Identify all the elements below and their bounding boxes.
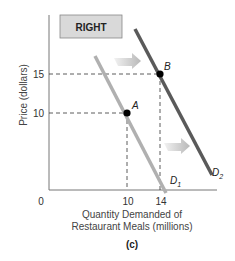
d2-label: D2 — [212, 167, 223, 180]
demand-shift-chart: RIGHT 15 10 Price (dollars) 0 10 14 Quan… — [0, 0, 235, 261]
shift-direction-box: RIGHT — [60, 15, 122, 38]
x-tick-14: 14 — [155, 196, 167, 207]
point-a-label: A — [131, 100, 139, 111]
x-axis-label-line2: Restaurant Meals (millions) — [71, 221, 192, 232]
y-tick-10: 10 — [33, 108, 45, 119]
demand-curve-d1 — [95, 56, 166, 193]
guide-lines — [49, 74, 160, 190]
point-b-marker — [156, 70, 163, 77]
figure-caption: (c) — [126, 239, 138, 250]
y-tick-15: 15 — [33, 69, 45, 80]
y-axis-label: Price (dollars) — [18, 64, 29, 126]
x-axis-label-line1: Quantity Demanded of — [82, 209, 182, 220]
x-tick-10: 10 — [122, 196, 134, 207]
point-a-marker — [123, 109, 130, 116]
point-b-label: B — [164, 61, 171, 72]
x-tick-0: 0 — [38, 196, 44, 207]
shift-arrow-icon — [114, 53, 141, 69]
shift-direction-label: RIGHT — [75, 22, 106, 33]
d1-label: D1 — [170, 175, 181, 188]
shift-arrow-icon — [164, 138, 190, 154]
